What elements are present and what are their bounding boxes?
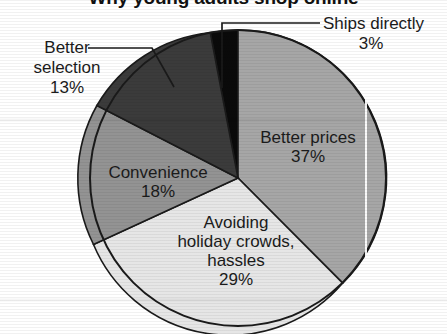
- slice-label-ships-directly-percent: 3%: [323, 34, 419, 54]
- slice-label-ships-directly-name: Ships directly: [323, 14, 424, 33]
- slice-label-better-selection: Better selection 13%: [8, 38, 126, 98]
- slice-label-convenience: Convenience 18%: [84, 163, 232, 201]
- slice-label-better-prices: Better prices 37%: [243, 128, 373, 166]
- slice-label-ships-directly: Ships directly3%: [323, 14, 447, 54]
- slice-label-avoiding-crowds: Avoiding holiday crowds, hassles 29%: [146, 213, 326, 289]
